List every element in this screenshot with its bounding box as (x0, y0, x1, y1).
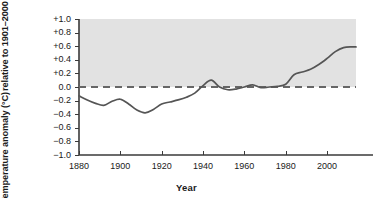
x-axis-title: Year (0, 182, 373, 193)
y-tick-label: +0.6 (37, 42, 71, 51)
x-tick-label: 1940 (183, 162, 223, 171)
y-tick-mark (75, 87, 79, 88)
y-tick-label: 0.0 (37, 83, 71, 92)
x-tick-label: 1960 (224, 162, 264, 171)
temperature-anomaly-figure: Temperature anomaly (°C) relative to 190… (0, 0, 373, 198)
y-tick-mark (75, 141, 79, 142)
x-tick-mark (244, 151, 245, 155)
x-tick-label: 2000 (307, 162, 347, 171)
y-tick-mark (75, 128, 79, 129)
y-tick-label: −0.2 (37, 96, 71, 105)
y-tick-label: +0.2 (37, 69, 71, 78)
y-tick-label: +0.4 (37, 55, 71, 64)
y-tick-label: +1.0 (37, 15, 71, 24)
y-tick-label: −0.4 (37, 110, 71, 119)
x-tick-label: 1880 (59, 162, 99, 171)
y-tick-label: −0.8 (37, 137, 71, 146)
y-tick-mark (75, 114, 79, 115)
y-tick-mark (75, 73, 79, 74)
x-tick-mark (203, 151, 204, 155)
y-tick-mark (75, 155, 79, 156)
shaded-band-above-zero (79, 19, 356, 87)
y-tick-label: +0.8 (37, 28, 71, 37)
y-tick-label: −1.0 (37, 151, 71, 160)
x-tick-mark (120, 151, 121, 155)
x-tick-label: 1920 (142, 162, 182, 171)
y-tick-mark (75, 46, 79, 47)
y-tick-mark (75, 60, 79, 61)
x-tick-label: 1980 (266, 162, 306, 171)
y-tick-label: −0.6 (37, 123, 71, 132)
y-tick-mark (75, 101, 79, 102)
y-tick-mark (75, 33, 79, 34)
x-tick-mark (162, 151, 163, 155)
x-tick-mark (327, 151, 328, 155)
y-tick-mark (75, 19, 79, 20)
x-tick-mark (79, 151, 80, 155)
x-tick-label: 1900 (100, 162, 140, 171)
x-tick-mark (286, 151, 287, 155)
